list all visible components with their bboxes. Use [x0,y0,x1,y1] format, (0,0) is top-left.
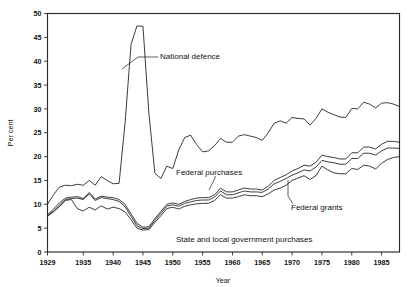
y-tick-label: 30 [34,105,42,114]
x-tick-label: 1985 [374,258,390,267]
annotation-state-local: State and local government purchases [176,235,313,244]
y-tick-label: 45 [34,33,42,42]
x-tick-label: 1940 [105,258,121,267]
x-tick-label: 1980 [344,258,360,267]
x-tick-label: 1960 [224,258,240,267]
y-tick-label: 0 [38,248,42,257]
x-tick-label: 1975 [314,258,330,267]
x-axis-title: Year [216,276,231,285]
y-tick-label: 20 [34,152,42,161]
y-tick-label: 40 [34,57,42,66]
x-tick-label: 1929 [40,258,56,267]
chart-figure: 05101520253035404550 1929193519401945195… [0,0,417,287]
x-tick-label: 1935 [75,258,91,267]
y-tick-label: 35 [34,81,42,90]
x-tick-label: 1970 [284,258,300,267]
x-tick-label: 1955 [195,258,211,267]
x-tick-label: 1950 [165,258,181,267]
y-tick-label: 10 [34,200,42,209]
annotation-national-defence: National defence [160,52,221,61]
x-tick-label: 1965 [254,258,270,267]
annotation-federal-grants: Federal grants [291,203,343,212]
x-tick-label: 1945 [135,258,151,267]
y-tick-label: 15 [34,176,42,185]
y-tick-label: 25 [34,128,42,137]
y-tick-label: 50 [34,9,42,18]
y-tick-label: 5 [38,224,42,233]
y-axis-title: Per cent [6,120,15,147]
chart-svg: 05101520253035404550 1929193519401945195… [0,0,417,287]
annotation-federal-purchases: Federal purchases [176,168,242,177]
